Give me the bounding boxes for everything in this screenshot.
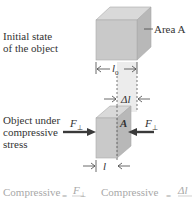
area-a-label: Area A (154, 23, 185, 35)
l-dimension (83, 160, 130, 172)
strain-numerator: Δl (178, 184, 188, 196)
compressed-box (96, 106, 131, 160)
delta-l-label: Δl (121, 93, 131, 105)
stress-numerator: F⊥ (73, 184, 86, 201)
force-right-label: F⊥ (145, 117, 158, 134)
stress-formula-word: Compressive (3, 186, 60, 198)
area-label-compressed: A (120, 117, 127, 129)
l0-label: l0 (112, 62, 119, 79)
l-label: l (103, 160, 106, 172)
force-left-label: F⊥ (70, 117, 83, 134)
compressed-label-line1: Object under (3, 114, 60, 126)
initial-state-label-line2: of the object (3, 42, 58, 54)
strain-eq: = (166, 190, 171, 202)
initial-cube (96, 7, 151, 60)
compressed-label-line3: stress (3, 138, 27, 150)
initial-state-label-line1: Initial state (3, 30, 52, 42)
stress-eq: = (62, 190, 67, 202)
compressed-label-line2: compressive (3, 126, 58, 138)
strain-formula-word: Compressive (101, 186, 158, 198)
